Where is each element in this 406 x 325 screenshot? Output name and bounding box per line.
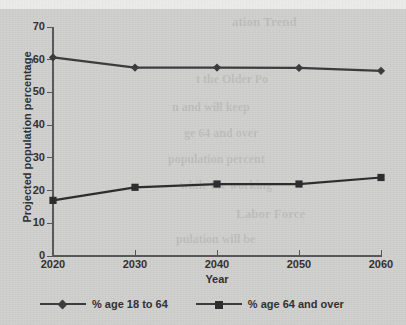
plot-area: 010203040506070 20202030204020502060 Pro… bbox=[0, 0, 406, 325]
data-point-diamond bbox=[131, 63, 139, 71]
data-point-square bbox=[131, 184, 138, 191]
data-point-diamond bbox=[213, 63, 221, 71]
legend-entry-age-64-and-over: % age 64 and over bbox=[196, 298, 344, 310]
data-point-square bbox=[49, 197, 56, 204]
chart-legend: % age 18 to 64 % age 64 and over bbox=[40, 294, 370, 314]
chart-figure: ation Trend t the Older Po n and will ke… bbox=[0, 0, 406, 325]
series-1 bbox=[49, 53, 385, 75]
data-point-square bbox=[213, 180, 220, 187]
data-point-square bbox=[377, 174, 384, 181]
series-container bbox=[0, 0, 406, 325]
legend-marker-diamond-icon bbox=[40, 298, 86, 310]
data-point-diamond bbox=[295, 64, 303, 72]
data-point-diamond bbox=[377, 67, 385, 75]
legend-entry-age-18-to-64: % age 18 to 64 bbox=[40, 298, 168, 310]
legend-label: % age 64 and over bbox=[248, 298, 344, 310]
series-2 bbox=[49, 174, 384, 204]
data-point-diamond bbox=[49, 53, 57, 61]
legend-marker-square-icon bbox=[196, 298, 242, 310]
data-point-square bbox=[295, 180, 302, 187]
legend-label: % age 18 to 64 bbox=[92, 298, 168, 310]
